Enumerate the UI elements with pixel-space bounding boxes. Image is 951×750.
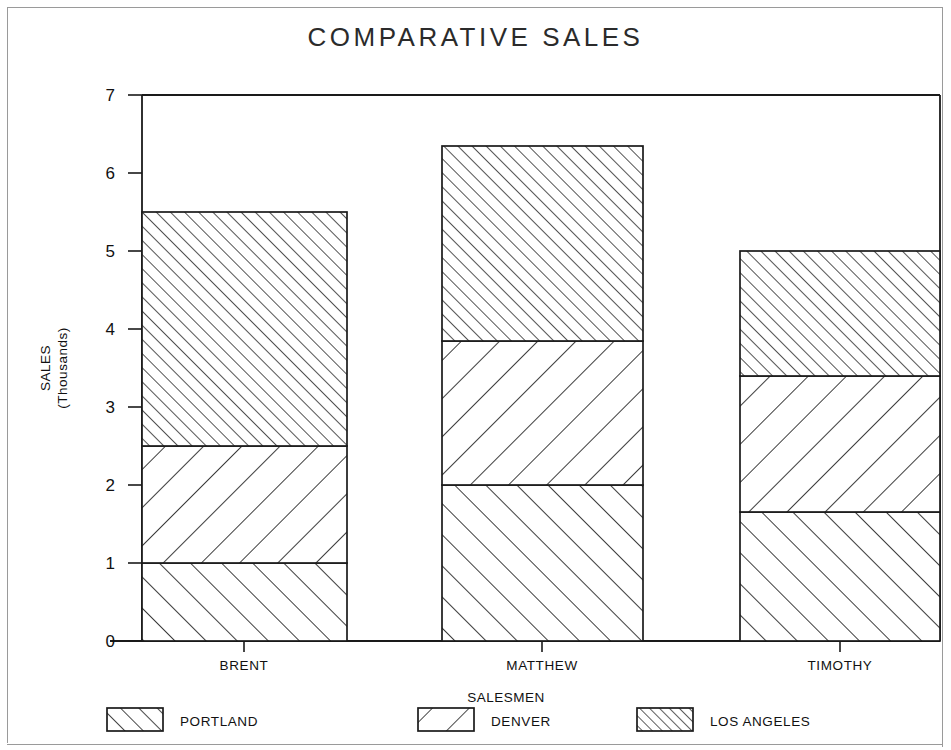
chart-legend: PORTLAND DENVER LOS ANGELES: [107, 708, 810, 731]
y-tick-3: 3: [106, 398, 142, 417]
bar-segment-timothy-portland[interactable]: [740, 512, 940, 641]
y-tick-5: 5: [106, 242, 142, 261]
y-tick-7: 7: [106, 86, 142, 105]
y-tick-label: 3: [106, 398, 115, 417]
legend-label-los-angeles: LOS ANGELES: [710, 714, 810, 729]
x-tick-label-timothy: TIMOTHY: [808, 658, 873, 673]
y-axis: 0 1 2 3 4 5 6: [106, 86, 142, 651]
y-tick-6: 6: [106, 164, 142, 183]
y-tick-label: 2: [106, 476, 115, 495]
x-tick-label-brent: BRENT: [220, 658, 269, 673]
y-tick-label: 4: [106, 320, 115, 339]
bar-segment-timothy-denver[interactable]: [740, 376, 940, 512]
y-axis-title: SALES (Thousands): [38, 327, 70, 408]
legend-item-los-angeles[interactable]: LOS ANGELES: [637, 708, 810, 731]
bar-group-brent[interactable]: [142, 212, 347, 641]
bar-segment-brent-portland[interactable]: [142, 563, 347, 641]
bar-segment-matthew-portland[interactable]: [442, 485, 643, 641]
y-axis-title-line2: (Thousands): [55, 327, 70, 408]
legend-label-portland: PORTLAND: [180, 714, 258, 729]
x-axis-title: SALESMEN: [467, 690, 545, 705]
y-axis-title-line1: SALES: [38, 345, 53, 391]
bar-group-timothy[interactable]: [740, 251, 940, 641]
y-tick-4: 4: [106, 320, 142, 339]
legend-swatch-los-angeles: [637, 708, 693, 731]
y-tick-label: 7: [106, 86, 115, 105]
bar-segment-timothy-los-angeles[interactable]: [740, 251, 940, 376]
y-tick-label: 6: [106, 164, 115, 183]
legend-item-denver[interactable]: DENVER: [418, 708, 551, 731]
legend-item-portland[interactable]: PORTLAND: [107, 708, 258, 731]
legend-swatch-portland: [107, 708, 163, 731]
bar-group-matthew[interactable]: [442, 146, 643, 641]
x-axis: BRENT MATTHEW TIMOTHY: [220, 641, 873, 673]
stacked-bar-chart: 0 1 2 3 4 5 6: [0, 0, 951, 750]
y-tick-1: 1: [106, 554, 142, 573]
y-tick-label: 0: [106, 632, 115, 651]
legend-swatch-denver: [418, 708, 474, 731]
bar-segment-matthew-los-angeles[interactable]: [442, 146, 643, 341]
legend-label-denver: DENVER: [491, 714, 551, 729]
bar-segment-brent-los-angeles[interactable]: [142, 212, 347, 446]
y-tick-2: 2: [106, 476, 142, 495]
bar-segment-matthew-denver[interactable]: [442, 341, 643, 485]
bar-segment-brent-denver[interactable]: [142, 446, 347, 563]
chart-page: COMPARATIVE SALES: [0, 0, 951, 750]
x-tick-label-matthew: MATTHEW: [506, 658, 577, 673]
y-tick-label: 5: [106, 242, 115, 261]
y-tick-label: 1: [106, 554, 115, 573]
